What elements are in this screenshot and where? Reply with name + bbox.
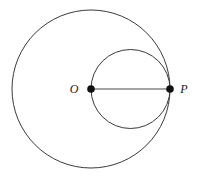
point-label-O: O <box>70 83 79 95</box>
geometry-figure: O P <box>0 0 197 177</box>
point-P-dot <box>166 85 174 93</box>
point-O-dot <box>87 85 95 93</box>
figure-canvas <box>0 0 197 177</box>
point-label-P: P <box>180 83 187 95</box>
